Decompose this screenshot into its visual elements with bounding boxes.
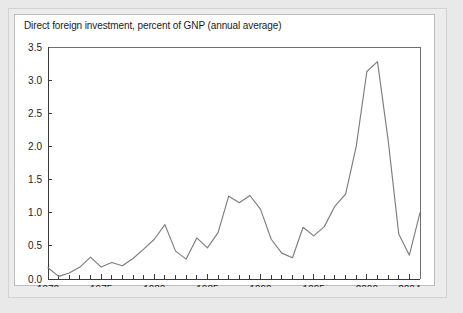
x-tick-label: 2004 [398, 284, 421, 287]
y-axis-ticks [48, 47, 52, 279]
figure-card: Direct foreign investment, percent of GN… [14, 14, 435, 286]
y-tick-label: 2.5 [28, 108, 42, 119]
y-tick-label: 0.0 [28, 274, 42, 285]
x-tick-label: 2000 [356, 284, 379, 287]
x-tick-label: 1995 [303, 284, 326, 287]
y-tick-label: 1.0 [28, 207, 42, 218]
x-tick-label: 1975 [90, 284, 113, 287]
y-tick-label: 0.5 [28, 240, 42, 251]
plot-frame [48, 47, 420, 279]
x-tick-label: 1970 [37, 284, 60, 287]
y-tick-label: 3.0 [28, 75, 42, 86]
y-tick-label: 3.5 [28, 42, 42, 53]
data-series-line [48, 62, 420, 277]
x-axis-ticks [48, 274, 420, 279]
x-axis-labels: 19701975198019851990199520002004 [37, 284, 421, 287]
x-tick-label: 1990 [249, 284, 272, 287]
x-tick-label: 1985 [196, 284, 219, 287]
x-tick-label: 1980 [143, 284, 166, 287]
y-tick-label: 2.0 [28, 141, 42, 152]
y-tick-label: 1.5 [28, 174, 42, 185]
y-axis-labels: 0.00.51.01.52.02.53.03.5 [28, 42, 42, 285]
plot-axes [48, 47, 420, 279]
figure-page: Direct foreign investment, percent of GN… [0, 0, 463, 313]
line-chart-plot: 0.00.51.01.52.02.53.03.5 197019751980198… [15, 15, 436, 287]
